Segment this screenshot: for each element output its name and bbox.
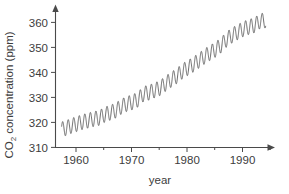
- x-tick-label-1990: 1990: [230, 154, 256, 166]
- co2-series-line: [62, 13, 266, 135]
- x-tick-label-1970: 1970: [119, 154, 145, 166]
- y-tick-label-320: 320: [29, 117, 48, 129]
- y-axis: [52, 5, 58, 149]
- y-tick-marks: [51, 22, 56, 147]
- keeling-curve-chart: CO2 concentration (ppm) 360 350 340 330 …: [0, 0, 289, 194]
- x-axis-arrow-icon: [268, 144, 276, 150]
- y-tick-label-340: 340: [29, 67, 48, 79]
- y-tick-labels: 360 350 340 330 320 310: [29, 17, 48, 154]
- x-tick-labels: 1960 1970 1980 1990: [63, 154, 255, 166]
- svg-text:CO2 concentration (ppm): CO2 concentration (ppm): [3, 31, 18, 158]
- y-axis-arrow-icon: [52, 5, 58, 13]
- x-tick-label-1960: 1960: [63, 154, 89, 166]
- y-axis-title-rest: concentration (ppm): [3, 31, 15, 137]
- x-tick-label-1980: 1980: [174, 154, 200, 166]
- y-axis-title: CO2 concentration (ppm): [3, 31, 18, 158]
- x-axis-title: year: [149, 174, 172, 186]
- chart-figure: CO2 concentration (ppm) 360 350 340 330 …: [0, 0, 289, 194]
- y-tick-label-350: 350: [29, 42, 48, 54]
- y-axis-title-text: CO: [3, 141, 15, 158]
- y-tick-label-330: 330: [29, 92, 48, 104]
- y-tick-label-360: 360: [29, 17, 48, 29]
- y-tick-label-310: 310: [29, 142, 48, 154]
